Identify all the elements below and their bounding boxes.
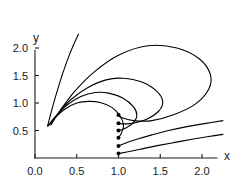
y-tick-label: 1.0 — [13, 97, 28, 109]
plot-canvas: 0.00.51.01.52.0 0.51.01.52.0 x y — [0, 0, 240, 190]
seed-point-marker — [117, 113, 121, 117]
y-tick-label: 0.5 — [13, 125, 28, 137]
seed-point-marker — [117, 121, 121, 125]
trajectory-curve — [48, 101, 124, 137]
seed-point-marker — [117, 144, 121, 148]
seed-points-layer — [117, 113, 121, 156]
trajectory-curve — [48, 34, 79, 126]
axis-labels-layer: x y — [33, 31, 230, 163]
trajectory-curve — [119, 121, 223, 146]
seed-point-marker — [117, 136, 121, 140]
x-tick-label: 1.0 — [111, 165, 126, 177]
x-tick-label: 1.5 — [153, 165, 168, 177]
y-axis-label: y — [33, 31, 39, 45]
phase-portrait-figure: 0.00.51.01.52.0 0.51.01.52.0 x y — [0, 0, 240, 190]
x-tick-label: 2.0 — [194, 165, 209, 177]
trajectory-curve — [51, 45, 211, 125]
x-tick-label: 0.0 — [27, 165, 42, 177]
y-tick-label: 2.0 — [13, 42, 28, 54]
x-tick-label: 0.5 — [69, 165, 84, 177]
trajectory-curve — [119, 134, 223, 153]
curves-layer — [48, 34, 223, 153]
x-axis-label: x — [224, 149, 230, 163]
y-tick-label: 1.5 — [13, 70, 28, 82]
seed-point-marker — [117, 129, 121, 133]
